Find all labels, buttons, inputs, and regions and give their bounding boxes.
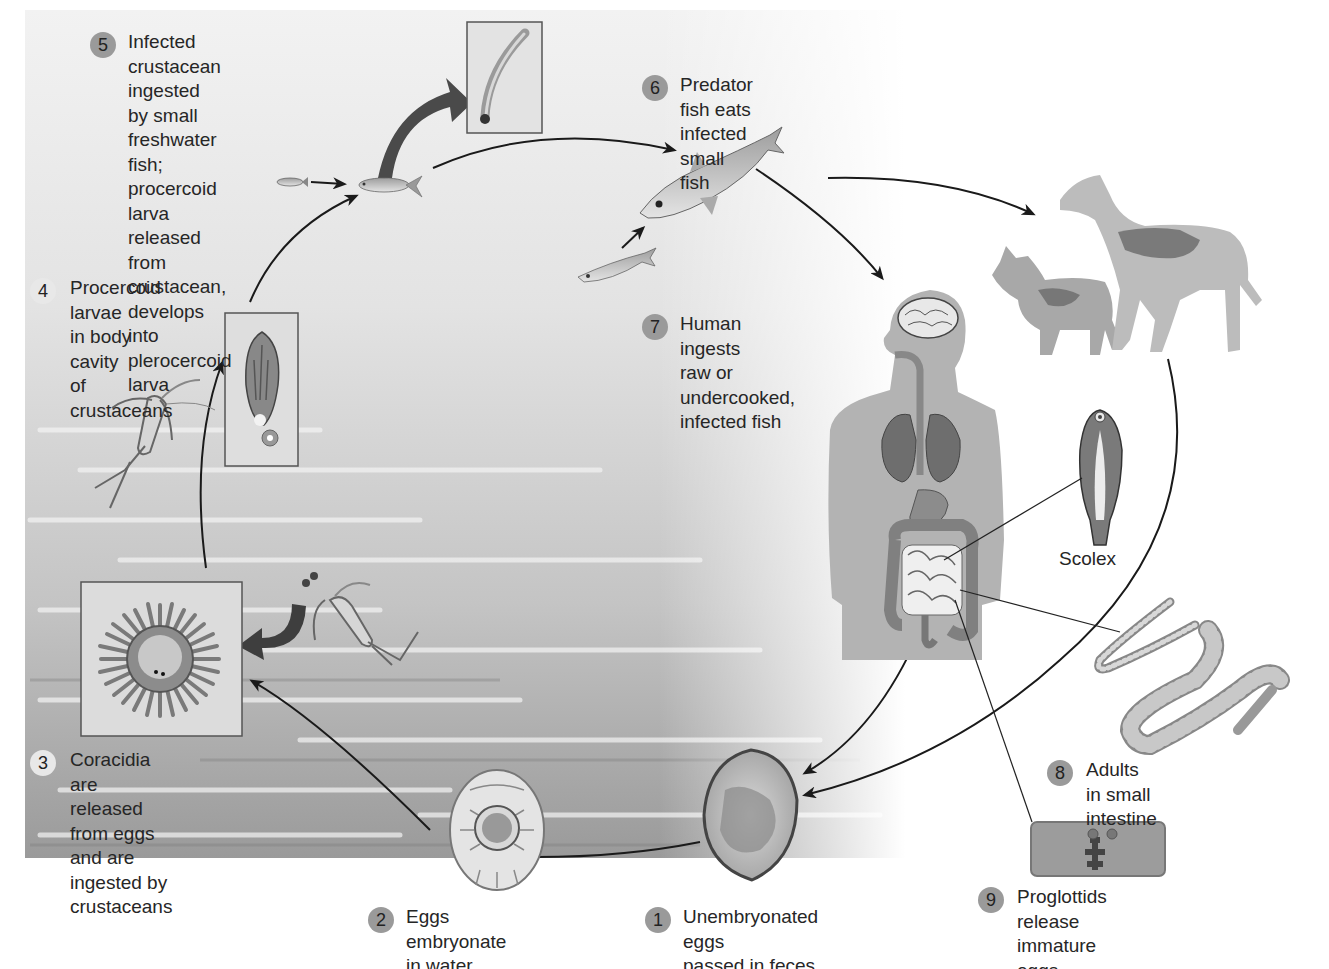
step-number-badge: 7: [642, 314, 668, 340]
procercoid-larva: [225, 313, 298, 466]
scolex-label: Scolex: [1059, 548, 1116, 570]
step-number-badge: 6: [642, 75, 668, 101]
unembryonated-egg: [704, 750, 797, 880]
step-number-badge: 3: [30, 750, 56, 776]
step-number-badge: 1: [645, 907, 671, 933]
step-number-badge: 2: [368, 907, 394, 933]
coracidium: [81, 582, 242, 736]
adult-tapeworm: [1099, 602, 1280, 745]
scolex: [1080, 410, 1122, 545]
life-cycle-diagram: 5 Infected crustacean ingested by small …: [0, 0, 1329, 969]
step-number-badge: 8: [1047, 760, 1073, 786]
embryonated-egg: [450, 770, 544, 890]
step-number-badge: 4: [30, 278, 56, 304]
step-number-badge: 5: [90, 32, 116, 58]
step-number-badge: 9: [978, 887, 1004, 913]
cat: [992, 246, 1120, 355]
plerocercoid-larva: [467, 22, 542, 133]
